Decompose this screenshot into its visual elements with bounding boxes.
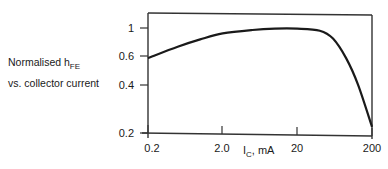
y-tick-label: 1 [128,22,134,34]
x-tick-label: 2.0 [214,142,229,154]
plot-area: 10.60.40.20.22.020200IC, mA [0,0,388,169]
x-tick-label: 200 [363,142,381,154]
x-axis [142,133,372,136]
x-tick-label: 20 [291,142,303,154]
x-tick-label: 0.2 [144,142,159,154]
y-tick-label: 0.2 [119,127,134,139]
y-tick-label: 0.6 [119,50,134,62]
hfe-curve [148,28,372,126]
y-tick-label: 0.4 [119,79,134,91]
x-axis-label: IC, mA [243,144,275,159]
frame-top [148,13,372,15]
